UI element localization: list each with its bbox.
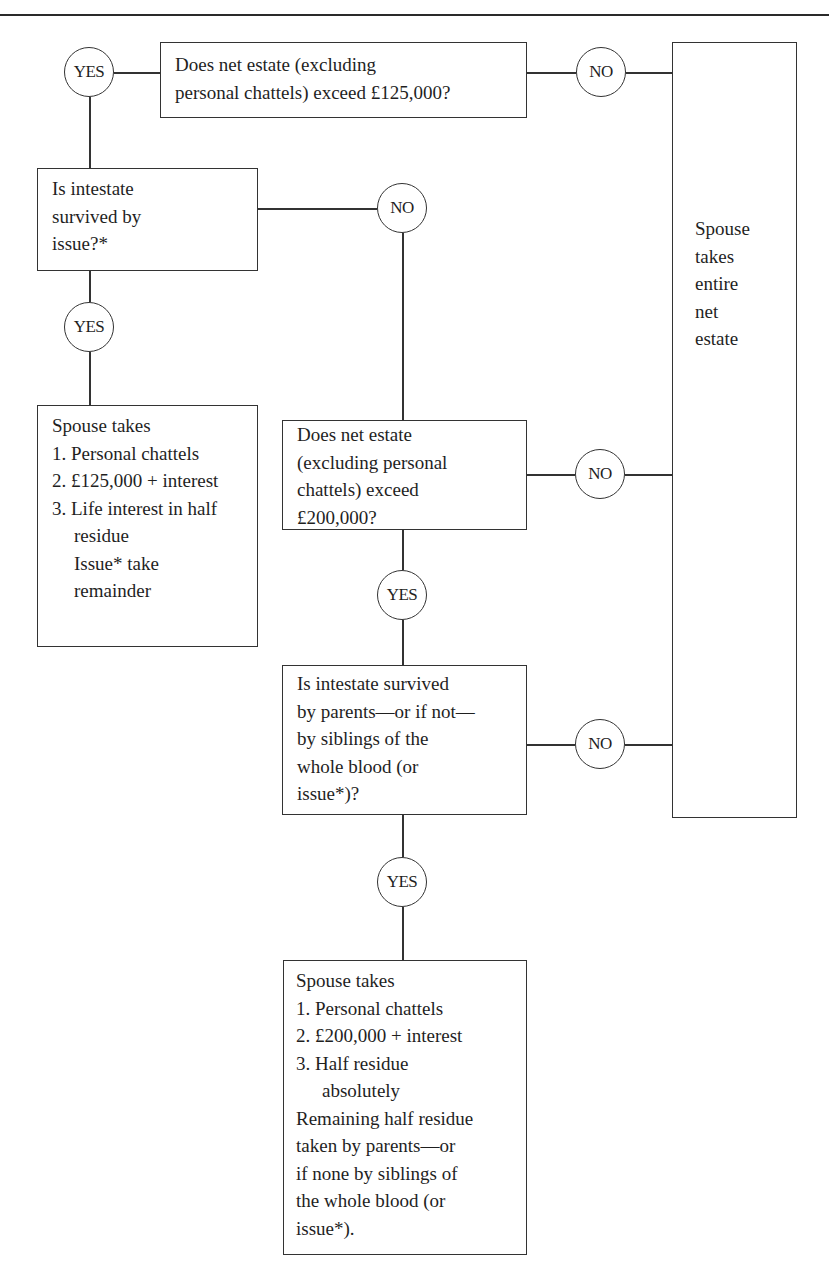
no-circle: NO	[575, 449, 625, 499]
outcome-item: 2. £125,000 + interest	[52, 467, 243, 495]
no-circle: NO	[575, 719, 625, 769]
node-text-line: net	[695, 298, 782, 326]
outcome-issue-survive: Spouse takes 1. Personal chattels 2. £12…	[37, 405, 258, 647]
node-text-line: issue*)?	[297, 780, 512, 808]
node-text-line: Does net estate	[297, 421, 512, 449]
node-text-line: Is intestate	[52, 175, 243, 203]
yes-label: YES	[74, 317, 105, 337]
no-circle: NO	[576, 47, 626, 97]
question-survived-by-issue: Is intestate survived by issue?*	[37, 168, 258, 271]
connector	[527, 744, 575, 746]
node-text-line: chattels) exceed	[297, 476, 512, 504]
top-rule	[0, 14, 829, 16]
yes-circle: YES	[64, 47, 114, 97]
connector	[258, 208, 377, 210]
connector	[402, 530, 404, 570]
outcome-footer-line: Remaining half residue	[296, 1105, 512, 1133]
no-circle: NO	[377, 183, 427, 233]
connector	[626, 72, 672, 74]
node-text-line: personal chattels) exceed £125,000?	[175, 79, 512, 107]
yes-label: YES	[387, 585, 418, 605]
node-text-line: entire	[695, 270, 782, 298]
outcome-footer-line: issue*).	[296, 1215, 512, 1243]
yes-circle: YES	[64, 302, 114, 352]
yes-circle: YES	[377, 570, 427, 620]
no-label: NO	[589, 62, 613, 82]
connector	[89, 97, 91, 168]
connector	[625, 474, 672, 476]
node-text-line: £200,000?	[297, 504, 512, 532]
node-text-line: estate	[695, 325, 782, 353]
connector	[527, 474, 575, 476]
outcome-footer-line: Issue* take	[52, 550, 243, 578]
outcome-heading: Spouse takes	[296, 967, 512, 995]
outcome-item: 1. Personal chattels	[52, 440, 243, 468]
connector	[527, 72, 576, 74]
connector	[402, 233, 404, 420]
node-text-line: by siblings of the	[297, 725, 512, 753]
connector	[402, 620, 404, 665]
question-survived-by-parents: Is intestate survived by parents—or if n…	[282, 665, 527, 815]
node-text-line: Does net estate (excluding	[175, 51, 512, 79]
node-text-line: issue?*	[52, 230, 243, 258]
yes-circle: YES	[377, 857, 427, 907]
outcome-item: 3. Life interest in half residue	[52, 495, 243, 550]
node-text-line: takes	[695, 243, 782, 271]
node-text-line: survived by	[52, 203, 243, 231]
node-text-line: by parents—or if not—	[297, 698, 512, 726]
node-text-line: whole blood (or	[297, 753, 512, 781]
node-text-line: Spouse	[695, 215, 782, 243]
outcome-spouse-takes-entire-estate: Spouse takes entire net estate	[672, 42, 797, 818]
outcome-item: 1. Personal chattels	[296, 995, 512, 1023]
outcome-footer-line: if none by siblings of	[296, 1160, 512, 1188]
connector	[402, 815, 404, 857]
no-label: NO	[588, 464, 612, 484]
outcome-footer-line: remainder	[52, 577, 243, 605]
connector	[89, 352, 91, 405]
outcome-item: 2. £200,000 + interest	[296, 1022, 512, 1050]
outcome-footer-line: taken by parents—or	[296, 1132, 512, 1160]
outcome-footer-line: the whole blood (or	[296, 1187, 512, 1215]
node-text-line: (excluding personal	[297, 449, 512, 477]
no-label: NO	[390, 198, 414, 218]
connector	[625, 744, 672, 746]
connector	[402, 907, 404, 960]
outcome-item: 3. Half residue absolutely	[296, 1050, 472, 1105]
yes-label: YES	[387, 872, 418, 892]
question-net-estate-200k: Does net estate (excluding personal chat…	[282, 420, 527, 530]
outcome-heading: Spouse takes	[52, 412, 243, 440]
yes-label: YES	[74, 62, 105, 82]
question-net-estate-125k: Does net estate (excluding personal chat…	[160, 42, 527, 118]
connector	[89, 271, 91, 302]
node-text-line: Is intestate survived	[297, 670, 512, 698]
no-label: NO	[588, 734, 612, 754]
outcome-parents-survive: Spouse takes 1. Personal chattels 2. £20…	[283, 960, 527, 1255]
connector	[114, 72, 160, 74]
